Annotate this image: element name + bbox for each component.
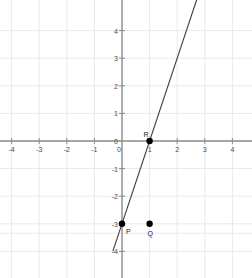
plot-canvas [0,0,252,278]
x-axis-label-4: 4 [230,146,234,153]
coordinate-plane-figure: -4-3-2-10123443210-1-2-3-4PQR [0,0,252,278]
x-axis-label-0: 0 [117,146,121,153]
data-point-p[interactable] [119,221,125,227]
x-axis-label-3: 3 [203,146,207,153]
x-axis-label-neg2: -2 [64,146,70,153]
y-axis-label-neg1: -1 [112,165,118,172]
y-axis-label-2: 2 [114,82,118,89]
x-axis-label-neg4: -4 [8,146,14,153]
y-axis-label-1: 1 [114,110,118,117]
x-axis-label-neg1: -1 [91,146,97,153]
x-axis-label-1: 1 [148,146,152,153]
point-label-q: Q [148,230,153,237]
y-axis-label-neg4: -4 [112,248,118,255]
data-point-r[interactable] [146,138,152,144]
point-label-p: P [126,228,131,235]
y-axis-label-4: 4 [114,27,118,34]
y-axis-label-neg3: -3 [112,220,118,227]
y-axis-label-3: 3 [114,55,118,62]
data-point-q[interactable] [146,221,152,227]
plotted-line [113,0,199,251]
x-axis-label-2: 2 [175,146,179,153]
y-axis-label-neg2: -2 [112,193,118,200]
point-label-r: R [144,131,149,138]
x-axis-label-neg3: -3 [36,146,42,153]
y-axis-label-0: 0 [114,138,118,145]
